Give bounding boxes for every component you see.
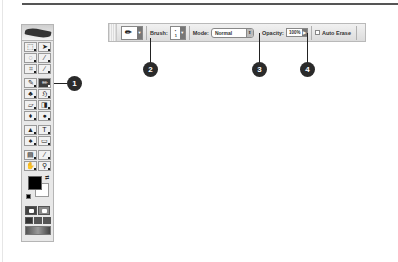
selection-tools: ⬚ ➤ ◌ ⁄ ⌗ ∕: [22, 41, 53, 75]
foreground-color-swatch[interactable]: [28, 176, 42, 190]
callout-4: 4: [300, 62, 315, 77]
brush-picker[interactable]: • 1 ▼: [170, 26, 186, 40]
notes-tool-icon[interactable]: ▤: [24, 150, 37, 160]
quick-mask-mode-icon[interactable]: [38, 206, 50, 215]
callout-3: 3: [252, 62, 267, 77]
opacity-field[interactable]: 100% ▶: [286, 28, 308, 37]
opacity-value: 100%: [289, 30, 301, 35]
jump-to-imageready-icon[interactable]: [25, 226, 51, 235]
mode-value: Normal: [215, 30, 232, 36]
brush-label: Brush:: [150, 30, 168, 36]
eyedropper-tool-icon[interactable]: ⁄: [38, 150, 51, 160]
edit-mode-buttons: [22, 206, 53, 215]
pencil-tool-icon[interactable]: ✏: [38, 78, 51, 88]
clone-stamp-tool-icon[interactable]: ♣: [24, 89, 37, 99]
vector-tools: ▲ T ♠ ▭: [22, 124, 53, 147]
options-bar-grip[interactable]: [109, 24, 117, 41]
opacity-label: Opacity:: [262, 30, 284, 36]
standard-screen-mode-icon[interactable]: [25, 217, 33, 224]
callout-2: 2: [143, 62, 158, 77]
painting-tools: ✎ ✏ ♣ ℌ ▱ ◨ ♦ ●: [22, 77, 53, 122]
feather-logo-icon: [24, 26, 51, 39]
shape-tool-icon[interactable]: ▭: [38, 136, 51, 146]
select-stepper-icon: ⇕: [246, 29, 253, 37]
lasso-tool-icon[interactable]: ◌: [24, 53, 37, 63]
toolbox-header[interactable]: [22, 25, 53, 41]
divider: [356, 26, 357, 40]
crop-tool-icon[interactable]: ⌗: [24, 64, 37, 74]
mode-select[interactable]: Normal ⇕: [211, 28, 254, 38]
eraser-tool-icon[interactable]: ▱: [24, 100, 37, 110]
full-screen-menu-mode-icon[interactable]: [34, 217, 42, 224]
callout-4-line: [307, 33, 308, 63]
divider: [146, 26, 147, 40]
tool-preset-picker[interactable]: ✏ ▼: [121, 26, 143, 40]
utility-tools: ▤ ⁄ ✋ ⚲: [22, 149, 53, 172]
default-colors-icon[interactable]: [26, 194, 31, 199]
color-swatches: ⇄: [25, 174, 50, 204]
marquee-tool-icon[interactable]: ⬚: [24, 42, 37, 52]
standard-mode-icon[interactable]: [25, 206, 37, 215]
mode-label: Mode:: [193, 30, 209, 36]
header-rule: [22, 3, 398, 5]
callout-1: 1: [67, 76, 82, 91]
blur-tool-icon[interactable]: ♦: [24, 111, 37, 121]
slice-tool-icon[interactable]: ∕: [38, 64, 51, 74]
zoom-tool-icon[interactable]: ⚲: [38, 161, 51, 171]
swap-colors-icon[interactable]: ⇄: [45, 174, 49, 180]
divider: [311, 26, 312, 40]
divider: [189, 26, 190, 40]
full-screen-mode-icon[interactable]: [43, 217, 51, 224]
move-tool-icon[interactable]: ➤: [38, 42, 51, 52]
pen-tool-icon[interactable]: ♠: [24, 136, 37, 146]
callout-2-line: [150, 38, 151, 63]
options-bar: ✏ ▼ Brush: • 1 ▼ Mode: Normal ⇕ Opacity:…: [108, 23, 366, 42]
auto-erase-checkbox[interactable]: [315, 30, 320, 35]
type-tool-icon[interactable]: T: [38, 125, 51, 135]
dropdown-arrow-icon: ▼: [180, 27, 185, 39]
auto-erase-label: Auto Erase: [322, 30, 351, 36]
history-brush-tool-icon[interactable]: ℌ: [38, 89, 51, 99]
screen-mode-buttons: [22, 217, 53, 224]
toolbox: ⬚ ➤ ◌ ⁄ ⌗ ∕ ✎ ✏ ♣ ℌ ▱ ◨ ♦ ● ▲ T ♠ ▭ ▤ ⁄ …: [21, 24, 54, 242]
dodge-tool-icon[interactable]: ●: [38, 111, 51, 121]
gradient-tool-icon[interactable]: ◨: [38, 100, 51, 110]
pencil-icon: ✏: [125, 28, 132, 37]
callout-3-line: [259, 33, 260, 63]
brush-size: 1: [175, 33, 177, 38]
hand-tool-icon[interactable]: ✋: [24, 161, 37, 171]
path-selection-tool-icon[interactable]: ▲: [24, 125, 37, 135]
page-margin-rule: [2, 0, 3, 262]
dropdown-arrow-icon: ▼: [137, 27, 142, 39]
healing-brush-tool-icon[interactable]: ✎: [24, 78, 37, 88]
magic-wand-tool-icon[interactable]: ⁄: [38, 53, 51, 63]
